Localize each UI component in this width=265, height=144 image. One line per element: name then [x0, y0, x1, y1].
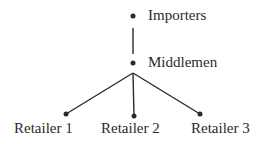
node-dot-retailer2 [132, 114, 137, 119]
node-label-importers: Importers [148, 7, 206, 23]
node-label-middlemen: Middlemen [148, 54, 218, 70]
edge-middlemen-retailer2 [133, 73, 134, 116]
node-dot-retailer3 [198, 112, 203, 117]
node-label-retailer2: Retailer 2 [101, 120, 160, 136]
edge-middlemen-retailer3 [133, 73, 200, 114]
supply-chain-diagram: Importers Middlemen Retailer 1 Retailer … [0, 0, 265, 144]
node-dot-retailer1 [64, 112, 69, 117]
node-dot-middlemen [131, 61, 136, 66]
node-dot-importers [131, 14, 136, 19]
node-label-retailer3: Retailer 3 [191, 120, 250, 136]
node-label-retailer1: Retailer 1 [14, 120, 73, 136]
edge-middlemen-retailer1 [66, 73, 133, 114]
